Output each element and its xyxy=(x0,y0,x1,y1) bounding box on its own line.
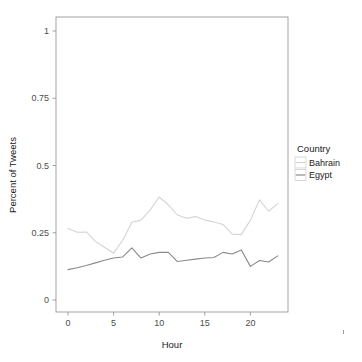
x-axis-title: Hour xyxy=(162,339,183,350)
legend-title: Country xyxy=(297,143,331,154)
y-tick-label: 0.5 xyxy=(36,161,49,171)
y-axis-tick-labels: 00.250.50.751 xyxy=(31,26,49,305)
x-axis-tick-labels: 05101520 xyxy=(65,318,255,328)
legend-item-label: Egypt xyxy=(309,170,333,180)
x-tick-label: 20 xyxy=(245,318,255,328)
plot-panel-background xyxy=(56,17,288,312)
y-axis-ticks xyxy=(53,31,57,300)
y-tick-label: 0 xyxy=(44,295,49,305)
y-tick-label: 0.25 xyxy=(31,228,49,238)
y-tick-label: 0.75 xyxy=(31,93,49,103)
x-tick-label: 15 xyxy=(200,318,210,328)
legend-item-label: Bahrain xyxy=(309,158,340,168)
y-tick-label: 1 xyxy=(44,26,49,36)
x-tick-label: 5 xyxy=(111,318,116,328)
x-tick-label: 0 xyxy=(65,318,70,328)
x-axis-ticks xyxy=(68,312,250,316)
line-chart: 00.250.50.751 05101520 Hour Percent of T… xyxy=(0,0,362,362)
legend-item-bahrain[interactable]: Bahrain xyxy=(295,157,340,168)
chart-legend: Country BahrainEgypt xyxy=(295,143,340,181)
legend-items: BahrainEgypt xyxy=(295,157,340,181)
chart-container: 00.250.50.751 05101520 Hour Percent of T… xyxy=(0,0,362,362)
legend-item-egypt[interactable]: Egypt xyxy=(295,170,333,181)
page-artifact-mark xyxy=(343,330,344,334)
y-axis-title: Percent of Tweets xyxy=(7,137,18,213)
x-tick-label: 10 xyxy=(154,318,164,328)
